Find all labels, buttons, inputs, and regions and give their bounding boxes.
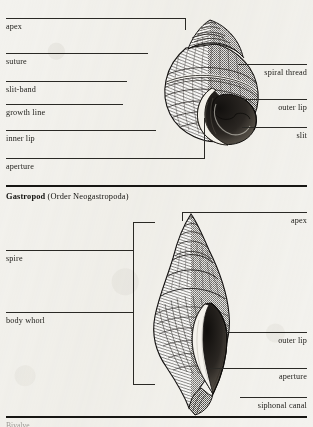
leader-rule-growth-line bbox=[6, 104, 123, 105]
label-aperture: aperture bbox=[6, 162, 34, 171]
leader-rule-aperture-lower bbox=[210, 368, 307, 369]
leader-rule-slit-band bbox=[6, 81, 127, 82]
archaeogastropod-shell-illustration bbox=[150, 18, 270, 168]
cut-off-next-caption: Bivalve bbox=[6, 421, 66, 427]
label-siphonal-canal: siphonal canal bbox=[258, 401, 307, 410]
caption-taxon-name: Gastropod bbox=[6, 192, 45, 201]
label-outer-lip-lower: outer lip bbox=[278, 336, 307, 345]
leader-rule-body-whorl bbox=[6, 312, 133, 313]
leader-rule-apex bbox=[6, 18, 186, 19]
bracket-bottom-tick bbox=[133, 384, 155, 385]
label-aperture-lower: aperture bbox=[279, 372, 307, 381]
section-divider-middle bbox=[6, 185, 307, 187]
label-spiral-thread: spiral thread bbox=[264, 68, 307, 77]
leader-riser-apex-lower bbox=[182, 212, 183, 221]
leader-rule-outer-lip-lower bbox=[225, 332, 307, 333]
bracket-top-tick bbox=[133, 222, 155, 223]
leader-rule-apex-lower bbox=[182, 212, 307, 213]
leader-riser-apex bbox=[185, 18, 186, 30]
bracket-spire-body-whorl bbox=[133, 222, 134, 385]
illustration-plate: apex suture slit-band growth line inner … bbox=[0, 0, 313, 427]
figure-caption-gastropod: Gastropod (Order Neogastropoda) bbox=[6, 192, 129, 201]
label-inner-lip: inner lip bbox=[6, 134, 35, 143]
leader-rule-slit bbox=[242, 127, 307, 128]
label-apex-lower: apex bbox=[291, 216, 307, 225]
leader-rule-inner-lip bbox=[6, 130, 156, 131]
leader-rule-aperture bbox=[6, 158, 205, 159]
leader-rule-siphonal-canal bbox=[240, 397, 307, 398]
leader-rule-spiral-thread bbox=[238, 64, 307, 65]
label-slit-band: slit-band bbox=[6, 85, 36, 94]
label-apex: apex bbox=[6, 22, 22, 31]
leader-rule-suture bbox=[6, 53, 148, 54]
leader-rule-spire bbox=[6, 250, 133, 251]
neogastropod-shell-illustration bbox=[133, 212, 253, 417]
section-divider-bottom bbox=[6, 416, 307, 418]
caption-taxon-order: (Order Neogastropoda) bbox=[45, 192, 128, 201]
label-slit: slit bbox=[296, 131, 307, 140]
label-outer-lip: outer lip bbox=[278, 103, 307, 112]
label-suture: suture bbox=[6, 57, 27, 66]
leader-riser-aperture bbox=[204, 118, 205, 159]
leader-rule-outer-lip bbox=[240, 99, 307, 100]
label-growth-line: growth line bbox=[6, 108, 45, 117]
label-body-whorl: body whorl bbox=[6, 316, 45, 325]
label-spire: spire bbox=[6, 254, 23, 263]
